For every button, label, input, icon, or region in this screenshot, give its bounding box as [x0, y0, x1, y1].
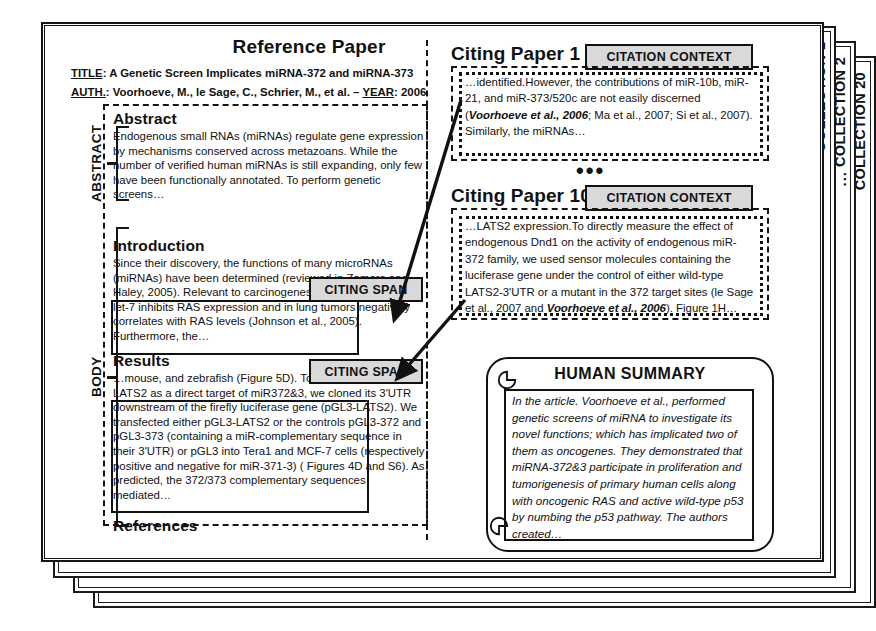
cp1-tail: ; Ma et al., 2007; Si et al., 2007).	[588, 109, 753, 121]
section-heading-abstract: Abstract	[113, 110, 425, 128]
year-value: : 2006	[394, 86, 426, 98]
citing-paper-1-title: Citing Paper 1	[451, 43, 580, 65]
citing-span-tag-results[interactable]: CITING SPAN	[309, 359, 423, 384]
citing-paper-10-text: …LATS2 expression.To directly measure th…	[465, 218, 755, 316]
cp10-tail: ).	[666, 302, 673, 314]
human-summary-title: HUMAN SUMMARY	[486, 365, 774, 383]
cp1-lead: …identified.	[465, 76, 525, 88]
cp10-after: Figure 1H…	[673, 302, 738, 314]
human-summary-panel: HUMAN SUMMARY In the article. Voorhoeve …	[486, 357, 774, 552]
section-references: References	[113, 517, 425, 535]
cp10-citation-bold: Voorhoeve et al., 2006	[547, 302, 666, 314]
reference-paper-card: Reference Paper TITLE: A Genetic Screen …	[41, 22, 824, 562]
citing-paper-1-text: …identified.However, the contributions o…	[465, 74, 755, 140]
reference-author-line: AUTH.: Voorhoeve, M., le Sage, C., Schri…	[71, 86, 426, 98]
title-value: : A Genetic Screen Implicates miRNA-372 …	[103, 67, 414, 79]
reference-paper-heading: Reference Paper	[159, 36, 459, 58]
section-text-abstract: Endogenous small RNAs (miRNAs) regulate …	[113, 129, 425, 202]
auth-value: : Voorhoeve, M., le Sage, C., Schrier, M…	[106, 86, 363, 98]
human-summary-text: In the article. Voorhoeve et al., perfor…	[512, 393, 748, 542]
citing-span-box-introduction[interactable]	[111, 300, 359, 355]
cp1-citation-bold: Voorhoeve et al., 2006	[469, 109, 588, 121]
section-group-label-body: BODY	[89, 312, 104, 442]
reference-title-line: TITLE: A Genetic Screen Implicates miRNA…	[71, 67, 413, 79]
speech-bubble-icon-bottom	[488, 515, 510, 537]
title-label: TITLE	[71, 67, 103, 79]
section-heading-references: References	[113, 517, 425, 535]
cp1-after: Similarly, the miRNAs…	[465, 125, 586, 137]
year-label: YEAR	[362, 86, 394, 98]
citing-papers-ellipsis: •••	[576, 160, 605, 182]
section-group-label-abstract: ABSTRACT	[89, 126, 104, 201]
cp10-lead: …LATS2 expression.	[465, 220, 572, 232]
section-abstract: Abstract Endogenous small RNAs (miRNAs) …	[113, 110, 425, 202]
auth-label: AUTH.	[71, 86, 106, 98]
citing-paper-10-title: Citing Paper 10	[451, 185, 591, 207]
section-heading-introduction: Introduction	[113, 237, 425, 255]
citing-span-tag-introduction[interactable]: CITING SPAN	[309, 277, 423, 302]
cp10-body: To directly measure the effect of endoge…	[465, 220, 753, 314]
citing-span-box-results[interactable]	[111, 400, 369, 513]
